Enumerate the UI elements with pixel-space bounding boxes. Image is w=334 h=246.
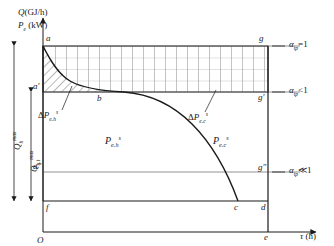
origin-label: O xyxy=(37,236,44,245)
alpha-annotation-less-than-one: αtp<1 xyxy=(289,86,308,97)
point-label-g-prime: g′ xyxy=(258,93,264,102)
figure-container: Q(GJ/h) Pe (kW) O τ (h) a a′ a″ b c d e … xyxy=(0,0,334,246)
dimension-arrows xyxy=(14,46,31,201)
y-axis-label-line1: Q(GJ/h) xyxy=(18,8,48,17)
point-label-g: g xyxy=(259,34,264,43)
point-label-a: a xyxy=(46,34,51,43)
alpha-annotation-much-less-than-one: αtp≪1 xyxy=(289,166,312,177)
point-label-g-double-prime: g″ xyxy=(258,163,266,172)
point-label-e: e xyxy=(264,233,268,242)
point-label-f: f xyxy=(46,203,49,212)
annotation-ticks xyxy=(272,46,285,172)
region-label-delta-pe-c: ΔPe.cs xyxy=(188,112,208,124)
point-label-b: b xyxy=(97,94,102,103)
region-label-pe-h: Pe.hs xyxy=(105,135,121,149)
dimension-label-qht-max: Qh.tmax xyxy=(29,150,41,172)
region-label-pe-c: Pe.cs xyxy=(213,135,229,149)
dimension-label-qh-max: Qhmax xyxy=(12,131,24,150)
y-axis-label-line2: Pe (kW) xyxy=(18,21,47,32)
alpha-annotation-equal-one: αtp=1 xyxy=(289,40,308,51)
point-label-d: d xyxy=(261,203,266,212)
x-axis-label: τ (h) xyxy=(300,232,316,241)
region-label-delta-pe-h: ΔPe.hs xyxy=(38,110,58,122)
point-label-a-prime: a′ xyxy=(33,82,39,91)
point-label-c: c xyxy=(234,203,238,212)
